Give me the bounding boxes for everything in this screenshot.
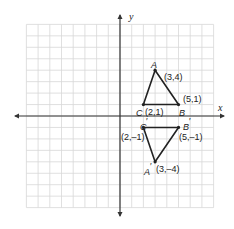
coord-label-c: (2,1) [145, 107, 164, 117]
coord-label-b: (5,1) [183, 94, 202, 104]
vertex-point [177, 103, 180, 106]
vertex-label-b: B [179, 108, 185, 118]
x-axis-label: x [217, 102, 223, 113]
coord-label-c-prime: (2,–1) [121, 132, 145, 142]
coord-label-b-prime: (5,–1) [179, 132, 203, 142]
y-axis-label: y [128, 11, 134, 22]
vertex-label-c: C [136, 108, 143, 118]
coordinate-plane: x y A (3,4) (5,1) B C (2,1) C ′ (2,–1) B… [0, 0, 234, 229]
prime-b: ′ [189, 116, 191, 126]
coord-label-a-prime: (3,–4) [156, 164, 180, 174]
prime-a: ′ [150, 161, 152, 171]
coord-label-a: (3,4) [164, 72, 183, 82]
y-axis-top-arrow-icon [118, 14, 123, 19]
y-axis-bottom-arrow-icon [118, 212, 123, 217]
vertex-point [142, 103, 145, 106]
vertex-point [177, 126, 180, 129]
x-axis-left-arrow-icon [14, 114, 19, 119]
vertex-point [154, 160, 157, 163]
vertex-label-a-prime: A [143, 167, 150, 177]
axes: x y [14, 11, 225, 217]
vertex-label-a: A [150, 60, 157, 70]
triangle-abc-prime [143, 127, 178, 161]
x-axis-right-arrow-icon [220, 114, 225, 119]
prime-c: ′ [146, 116, 148, 126]
